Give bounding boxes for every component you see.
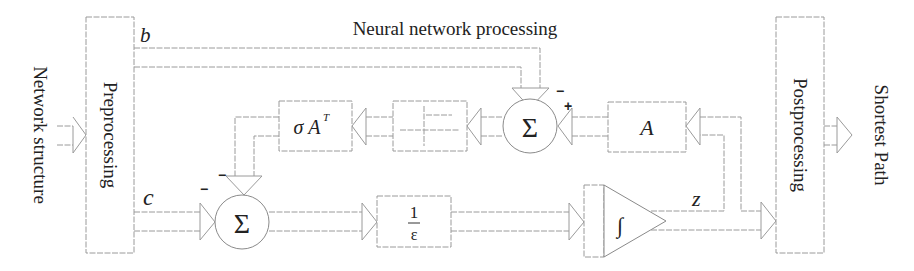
activation-function-block — [393, 101, 467, 151]
gain-to-integrator-arrow — [451, 203, 584, 240]
sum2-to-gain-arrow — [269, 203, 377, 240]
input-label: Network structure — [30, 66, 51, 204]
signal-b-label: b — [140, 23, 151, 47]
b-signal-path — [134, 48, 549, 108]
gain-block: 1 ε — [377, 196, 451, 247]
output-arrow — [824, 117, 852, 153]
summing-junction-1: Σ — [503, 99, 557, 153]
gain-numerator: 1 — [410, 203, 419, 222]
matrix-a-block: A — [608, 102, 686, 152]
preprocessing-label: Preprocessing — [100, 82, 121, 189]
gain-denominator: ε — [411, 226, 418, 243]
signal-c-label: c — [143, 184, 154, 210]
transpose-superscript: T — [323, 111, 330, 123]
signal-z-label: z — [691, 186, 701, 211]
sum1-to-threshold-arrow — [467, 108, 503, 145]
input-arrow — [57, 117, 86, 153]
preprocessing-block: Preprocessing — [86, 17, 134, 253]
sum1-symbol: Σ — [522, 112, 538, 143]
integrator-block: ∫ — [584, 185, 666, 257]
sum2-symbol: Σ — [234, 208, 250, 239]
output-label: Shortest Path — [871, 85, 892, 186]
sum2-left-minus-sign: − — [200, 181, 208, 197]
summing-junction-2: Σ — [215, 195, 269, 249]
diagram-title: Neural network processing — [353, 18, 558, 39]
neural-network-shortest-path-diagram: Neural network processing Network struct… — [0, 0, 914, 271]
sigma-to-sum2-path — [226, 117, 279, 195]
matrix-a-label: A — [638, 115, 654, 140]
threshold-to-sigma-arrow — [352, 108, 393, 145]
sigma-a-label: σ A — [293, 116, 321, 138]
sum2-top-minus-sign: − — [218, 167, 226, 183]
postprocessing-label: Postprocessing — [790, 78, 811, 193]
sum1-minus-sign: − — [556, 83, 564, 99]
sigma-a-transpose-block: σ A T — [279, 101, 352, 151]
postprocessing-block: Postprocessing — [776, 17, 824, 253]
